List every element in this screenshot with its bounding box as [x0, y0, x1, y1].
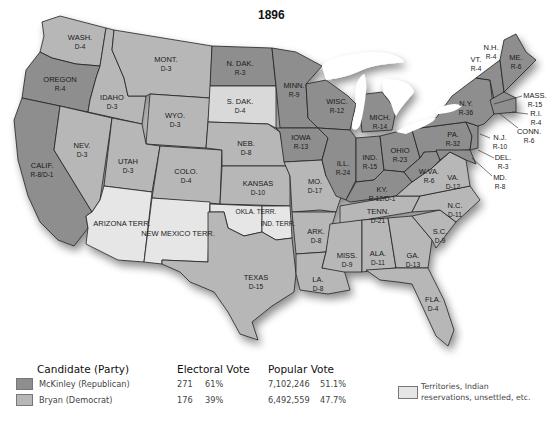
svg-text:N.C.D-11: N.C.D-11: [448, 201, 463, 218]
label-kansas: KANSAS: [243, 179, 273, 188]
label-ark: ARK.: [307, 227, 325, 236]
label-mont: MONT.: [154, 55, 177, 64]
label-wash: WASH.: [68, 33, 92, 42]
svg-text:IOWAR-13: IOWAR-13: [291, 133, 311, 150]
svg-text:CONN.R-6: CONN.R-6: [517, 127, 541, 144]
label-fla: FLA.: [425, 295, 441, 304]
label-ala: ALA.: [370, 249, 386, 258]
label-texas: TEXAS: [244, 273, 269, 282]
label-vt: VT.: [471, 55, 482, 64]
label-minn: MINN.: [283, 81, 304, 90]
label-la: LA.: [312, 275, 323, 284]
label-miss: MISS.: [337, 251, 357, 260]
label-wyo: WYO.: [165, 111, 185, 120]
label-ga: GA.: [407, 251, 420, 260]
state-fla: [366, 268, 454, 346]
svg-text:VA.D-12: VA.D-12: [446, 173, 461, 190]
svg-text:NEW MEXICO TERR.: NEW MEXICO TERR.: [141, 229, 215, 238]
label-nh: N.H.: [484, 43, 499, 52]
label-n-dak: N. DAK.: [226, 59, 253, 68]
legend-candidate-bryan: Bryan (Democrat): [39, 395, 112, 405]
label-pa: PA.: [447, 130, 459, 139]
mckinley-popular-votes: 7,102,246: [268, 379, 310, 389]
label-idaho: IDAHO: [100, 93, 124, 102]
label-ohio: OHIO: [390, 146, 409, 155]
label-calif: CALIF.: [31, 161, 54, 170]
label-okla: OKLA. TERR.: [236, 208, 277, 215]
state-mont: [112, 30, 212, 98]
svg-text:OHIOR-23: OHIOR-23: [390, 146, 409, 163]
label-ky: KY.: [376, 185, 387, 194]
label-mo: MO.: [308, 177, 322, 186]
legend: Candidate (Party) Electoral Vote Popular…: [0, 358, 558, 424]
svg-text:OKLA. TERR.: OKLA. TERR.: [236, 208, 277, 215]
svg-text:N.J.R-10: N.J.R-10: [493, 133, 508, 150]
bryan-popular-votes: 6,492,559: [268, 395, 310, 405]
svg-text:ARIZONA TERR.: ARIZONA TERR.: [93, 219, 150, 228]
label-sc: S.C.: [433, 227, 448, 236]
svg-text:MASS.R-15: MASS.R-15: [523, 91, 546, 108]
democrat-swatch: [16, 394, 33, 406]
label-utah: UTAH: [118, 157, 138, 166]
svg-text:CALIF.R-8/D-1: CALIF.R-8/D-1: [30, 161, 53, 178]
bryan-electoral-votes: 176: [177, 395, 193, 405]
label-va: VA.: [447, 173, 459, 182]
mckinley-popular-pct: 51.1%: [320, 379, 346, 389]
territory-swatch: [398, 386, 418, 399]
svg-text:PA.R-32: PA.R-32: [446, 130, 461, 147]
territory-note-line1: Territories, Indian: [421, 382, 489, 391]
label-conn: CONN.: [517, 127, 541, 136]
label-new-mexico: NEW MEXICO TERR.: [141, 229, 215, 238]
label-arizona: ARIZONA TERR.: [93, 219, 150, 228]
label-ri: R.I.: [530, 109, 542, 118]
label-tenn: TENN.: [367, 207, 390, 216]
label-colo: COLO.: [174, 167, 197, 176]
label-oregon: OREGON: [43, 75, 76, 84]
legend-header-electoral: Electoral Vote: [177, 363, 250, 375]
label-ind-terr: IND. TERR.: [261, 220, 296, 227]
svg-text:S.C.D-9: S.C.D-9: [433, 227, 448, 244]
svg-text:N.H.R-4: N.H.R-4: [484, 43, 499, 60]
label-mich: MICH.: [369, 113, 390, 122]
label-w-va: W.VA.: [419, 167, 439, 176]
svg-text:IND. TERR.: IND. TERR.: [261, 220, 296, 227]
label-ind: IND.: [363, 153, 378, 162]
svg-text:LA.D-8: LA.D-8: [312, 275, 323, 292]
svg-text:MD.R-8: MD.R-8: [493, 173, 507, 190]
label-wisc: WISC.: [326, 97, 348, 106]
legend-header-candidate: Candidate (Party): [37, 363, 129, 375]
svg-text:MO.D-17: MO.D-17: [308, 177, 323, 194]
label-ill: ILL.: [337, 159, 350, 168]
republican-swatch: [16, 378, 33, 390]
svg-text:ME.R-6: ME.R-6: [509, 53, 522, 70]
territory-note-line2: reservations, unsettled, etc.: [421, 393, 531, 402]
legend-header-popular: Popular Vote: [268, 363, 334, 375]
label-md: MD.: [493, 173, 507, 182]
us-election-map: WASH.D-4 OREGONR-4 CALIF.R-8/D-1 IDAHOD-…: [0, 0, 558, 360]
label-nev: NEV.: [74, 141, 91, 150]
label-ny: N.Y.: [459, 99, 473, 108]
svg-text:IND.R-15: IND.R-15: [363, 153, 378, 170]
label-me: ME.: [509, 53, 522, 62]
svg-text:ALA.D-11: ALA.D-11: [370, 249, 386, 266]
legend-candidate-mckinley: McKinley (Republican): [39, 379, 130, 389]
label-nj: N.J.: [493, 133, 506, 142]
svg-text:R.I.R-4: R.I.R-4: [530, 109, 542, 126]
label-s-dak: S. DAK.: [227, 97, 254, 106]
mckinley-electoral-votes: 271: [177, 379, 193, 389]
svg-text:GA.D-13: GA.D-13: [406, 251, 421, 268]
svg-text:ILL.R-24: ILL.R-24: [336, 159, 351, 176]
svg-text:DEL.R-3: DEL.R-3: [495, 153, 512, 170]
label-mass: MASS.: [523, 91, 546, 100]
label-iowa: IOWA: [291, 133, 311, 142]
label-neb: NEB.: [237, 139, 255, 148]
bryan-popular-pct: 47.7%: [320, 395, 346, 405]
svg-text:N.Y.R-36: N.Y.R-36: [459, 99, 474, 116]
label-nc: N.C.: [448, 201, 463, 210]
label-del: DEL.: [495, 153, 512, 162]
svg-text:VT.R-4: VT.R-4: [471, 55, 482, 72]
mckinley-electoral-pct: 61%: [205, 379, 223, 389]
bryan-electoral-pct: 39%: [205, 395, 223, 405]
